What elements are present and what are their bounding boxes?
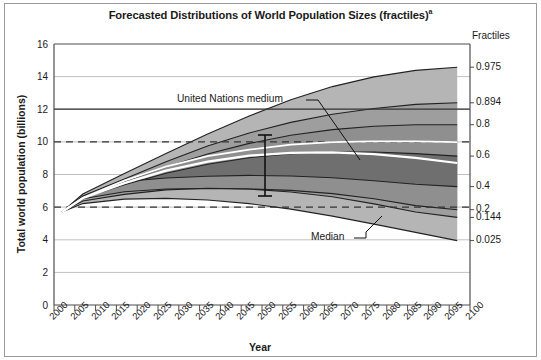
fractile-label-0025: 0.025 — [476, 234, 501, 245]
y-tick-label-10: 10 — [22, 136, 48, 147]
y-tick-label-8: 8 — [22, 169, 48, 180]
fractile-label-08: 0.8 — [476, 118, 490, 129]
y-tick-label-0: 0 — [22, 300, 48, 311]
y-tick-label-4: 4 — [22, 234, 48, 245]
y-tick-label-6: 6 — [22, 202, 48, 213]
y-tick-label-12: 12 — [22, 104, 48, 115]
y-tick-label-14: 14 — [22, 71, 48, 82]
fractile-label-0975: 0.975 — [476, 61, 501, 72]
annotation-median: Median — [311, 231, 344, 242]
annotation-un-medium: United Nations medium — [177, 93, 283, 104]
y-tick-label-2: 2 — [22, 267, 48, 278]
y-tick-label-16: 16 — [22, 39, 48, 50]
fractile-label-04: 0.4 — [476, 180, 490, 191]
fractile-label-0894: 0.894 — [476, 96, 501, 107]
figure-container: Forecasted Distributions of World Popula… — [0, 0, 541, 360]
fractile-label-06: 0.6 — [476, 149, 490, 160]
fractile-label-0144: 0.144 — [476, 211, 501, 222]
